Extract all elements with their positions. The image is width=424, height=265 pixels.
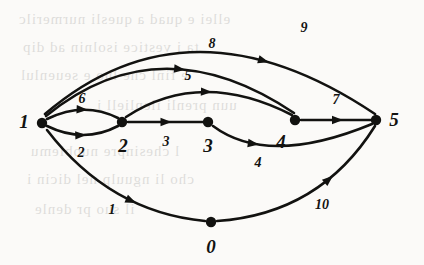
edge-label-5: 5: [185, 68, 192, 84]
edge-label-6: 6: [79, 91, 86, 107]
edge-label-10: 10: [315, 197, 329, 213]
graph-node-1: [37, 118, 47, 128]
node-label-1: 1: [19, 111, 29, 133]
graph-node-4: [290, 115, 300, 125]
edge-arrowhead-2: [75, 131, 86, 140]
edge-label-4: 4: [255, 155, 262, 171]
edge-arrowhead-7: [332, 116, 343, 124]
graph-node-0: [206, 217, 216, 227]
node-layer: [37, 115, 381, 227]
graph-edge-2: [47, 126, 118, 135]
node-label-5: 5: [389, 109, 399, 131]
edge-label-7: 7: [333, 92, 340, 108]
graph-node-3: [203, 117, 213, 127]
edge-arrowhead-3: [161, 118, 172, 126]
edge-label-2: 2: [78, 145, 85, 161]
node-label-3: 3: [203, 135, 213, 157]
node-label-0: 0: [206, 236, 216, 258]
edge-label-8: 8: [209, 36, 216, 52]
graph-edge-4: [213, 124, 372, 146]
graph-node-2: [117, 117, 127, 127]
graph-node-5: [371, 115, 381, 125]
edge-label-3: 3: [163, 134, 170, 150]
edge-label-9: 9: [301, 20, 308, 36]
node-label-4: 4: [276, 131, 286, 153]
figure-canvas: ellei e quad a quesli nurmerilcta i vest…: [0, 0, 424, 265]
graph-edge-9: [45, 52, 375, 114]
edge-label-1: 1: [109, 202, 116, 218]
node-label-2: 2: [118, 135, 128, 157]
edge-arrowhead-1: [124, 195, 137, 207]
edge-arrowhead-5: [201, 87, 212, 96]
